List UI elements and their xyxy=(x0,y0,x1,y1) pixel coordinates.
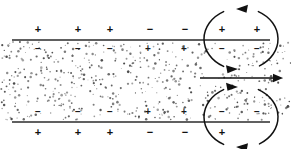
stipple-dot xyxy=(7,112,8,113)
stipple-dot xyxy=(17,117,18,118)
stipple-dot xyxy=(8,57,10,59)
stipple-dot xyxy=(71,87,73,89)
stipple-dot xyxy=(94,85,95,86)
stipple-dot xyxy=(68,99,71,102)
stipple-dot xyxy=(276,62,278,64)
stipple-dot xyxy=(214,43,216,45)
stipple-dot xyxy=(208,116,211,119)
stipple-dot xyxy=(126,58,128,60)
stipple-dot xyxy=(233,56,235,58)
stipple-dot xyxy=(155,78,156,79)
stipple-dot xyxy=(56,59,57,60)
stipple-dot xyxy=(268,106,269,107)
stipple-dot xyxy=(100,83,102,85)
stipple-dot xyxy=(25,52,26,53)
stipple-dot xyxy=(228,95,230,97)
stipple-dot xyxy=(172,52,173,53)
stipple-dot xyxy=(252,56,254,58)
stipple-dot xyxy=(170,75,172,77)
stipple-dot xyxy=(165,87,167,89)
stipple-dot xyxy=(176,106,178,108)
stipple-dot xyxy=(77,67,78,68)
negative-charge-symbol: − xyxy=(182,126,188,138)
stipple-dot xyxy=(19,48,21,50)
stipple-dot xyxy=(72,110,74,112)
stipple-dot xyxy=(4,50,5,51)
stipple-dot xyxy=(61,103,62,104)
stipple-dot xyxy=(45,51,47,53)
stipple-dot xyxy=(140,66,142,68)
stipple-dot xyxy=(62,58,64,60)
top-right-vortex-bottom-arrowhead-right xyxy=(226,65,238,73)
stipple-dot xyxy=(284,51,285,52)
stipple-dot xyxy=(93,104,95,106)
stipple-dot xyxy=(253,100,255,102)
stipple-dot xyxy=(145,118,147,120)
top-right-vortex xyxy=(204,5,278,73)
stipple-dot xyxy=(113,76,114,77)
stipple-dot xyxy=(152,67,155,70)
stipple-dot xyxy=(19,41,21,43)
stipple-dot xyxy=(75,65,76,66)
stipple-dot xyxy=(116,101,119,104)
stipple-dot xyxy=(65,45,66,46)
stipple-dot xyxy=(139,61,140,62)
stipple-dot xyxy=(64,50,67,53)
stipple-dot xyxy=(287,42,289,44)
stipple-dot xyxy=(49,71,51,73)
stipple-dot xyxy=(190,71,192,73)
stipple-dot xyxy=(228,51,231,54)
stipple-dot xyxy=(70,72,72,74)
stipple-dot xyxy=(187,47,189,49)
stipple-dot xyxy=(173,102,175,104)
stipple-dot xyxy=(277,82,279,84)
stipple-dot xyxy=(30,59,32,61)
stipple-dot xyxy=(32,44,33,45)
stipple-dot xyxy=(262,51,264,53)
stipple-dot xyxy=(129,53,131,55)
stipple-dot xyxy=(263,42,265,44)
stipple-dot xyxy=(154,62,157,65)
stipple-dot xyxy=(237,93,238,94)
stipple-dot xyxy=(163,111,165,113)
negative-charge-symbol: − xyxy=(182,23,188,35)
stipple-dot xyxy=(71,102,73,104)
stipple-dot xyxy=(54,78,56,80)
stipple-dot xyxy=(129,65,131,67)
stipple-dot xyxy=(118,94,119,95)
stipple-dot xyxy=(135,116,137,118)
stipple-dot xyxy=(17,50,20,53)
stipple-dot xyxy=(100,96,102,98)
stipple-dot xyxy=(139,57,141,59)
stipple-dot xyxy=(175,80,178,83)
stipple-dot xyxy=(50,56,52,58)
stipple-dot xyxy=(80,70,81,71)
stipple-dot xyxy=(103,51,104,52)
stipple-dot xyxy=(3,99,5,101)
stipple-dot xyxy=(35,73,37,75)
stipple-dot xyxy=(231,94,233,96)
stipple-dot xyxy=(54,100,56,102)
stipple-dot xyxy=(267,51,269,53)
stipple-dot xyxy=(83,74,86,77)
stipple-dot xyxy=(15,103,16,104)
stipple-dot xyxy=(76,87,77,88)
stipple-dot xyxy=(60,105,62,107)
stipple-dot xyxy=(27,41,29,43)
stipple-dot xyxy=(64,109,65,110)
stipple-dot xyxy=(127,83,129,85)
stipple-dot xyxy=(114,46,115,47)
stipple-dot xyxy=(4,80,5,81)
stipple-dot xyxy=(136,110,137,111)
stipple-dot xyxy=(207,48,209,50)
negative-charge-symbol: − xyxy=(35,43,41,54)
stipple-dot xyxy=(14,76,15,77)
stipple-dot xyxy=(146,59,148,61)
stipple-dot xyxy=(169,64,170,65)
stipple-dot xyxy=(179,78,181,80)
stipple-dot xyxy=(215,119,216,120)
stipple-dot xyxy=(114,52,116,54)
stipple-dot xyxy=(279,98,281,100)
stipple-dot xyxy=(189,87,191,89)
stipple-dot xyxy=(247,109,248,110)
